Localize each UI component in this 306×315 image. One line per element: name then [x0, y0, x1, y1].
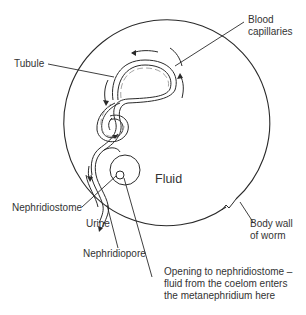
label-tubule: Tubule: [14, 58, 44, 70]
label-nephridiopore: Nephridiopore: [83, 248, 146, 260]
label-opening-line1: Opening to nephridiostome –: [164, 266, 292, 278]
label-fluid: Fluid: [155, 173, 182, 185]
label-blood: Blood: [248, 14, 274, 26]
label-urine: Urine: [86, 218, 110, 230]
label-opening-line2: fluid from the coelom enters: [164, 278, 287, 290]
arrow-heads: [87, 50, 183, 232]
label-body-wall: Body wall: [250, 218, 293, 230]
body-wall-outline: [64, 20, 270, 226]
label-opening-line3: the metanephridium here: [164, 290, 275, 302]
label-of-worm: of worm: [250, 230, 286, 242]
label-capillaries: capillaries: [248, 26, 292, 38]
label-nephridiostome: Nephridiostome: [12, 202, 82, 214]
tubule: [86, 60, 176, 224]
